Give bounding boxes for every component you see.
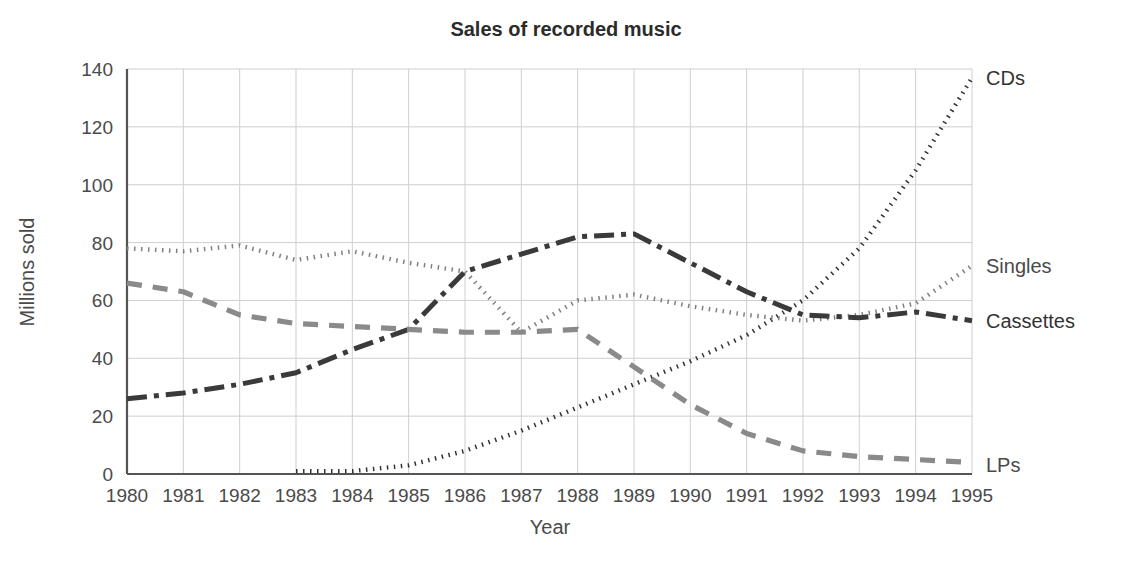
series-label-cds: CDs bbox=[986, 67, 1025, 89]
x-tick-label: 1980 bbox=[106, 485, 148, 506]
y-tick-label: 100 bbox=[81, 175, 113, 196]
series-labels: CDsSinglesCassettesLPs bbox=[986, 67, 1075, 477]
x-tick-label: 1986 bbox=[444, 485, 486, 506]
x-tick-label: 1987 bbox=[500, 485, 542, 506]
x-tick-label: 1989 bbox=[613, 485, 655, 506]
chart-title: Sales of recorded music bbox=[450, 18, 681, 40]
axis-lines bbox=[127, 69, 972, 474]
y-tick-label: 140 bbox=[81, 59, 113, 80]
x-tick-label: 1991 bbox=[726, 485, 768, 506]
y-axis-tick-labels: 020406080100120140 bbox=[81, 59, 113, 485]
y-tick-label: 60 bbox=[92, 290, 113, 311]
x-tick-label: 1993 bbox=[838, 485, 880, 506]
y-tick-label: 80 bbox=[92, 233, 113, 254]
series-label-cassettes: Cassettes bbox=[986, 310, 1075, 332]
chart-container: 1980198119821983198419851986198719881989… bbox=[0, 0, 1133, 577]
y-tick-label: 120 bbox=[81, 117, 113, 138]
grid-lines bbox=[127, 69, 972, 474]
x-tick-label: 1982 bbox=[219, 485, 261, 506]
y-tick-label: 40 bbox=[92, 348, 113, 369]
y-tick-label: 20 bbox=[92, 406, 113, 427]
x-tick-label: 1994 bbox=[895, 485, 938, 506]
x-axis-tick-labels: 1980198119821983198419851986198719881989… bbox=[106, 485, 993, 506]
x-tick-label: 1985 bbox=[388, 485, 430, 506]
x-tick-label: 1990 bbox=[669, 485, 711, 506]
x-axis-title: Year bbox=[530, 516, 571, 538]
line-chart: 1980198119821983198419851986198719881989… bbox=[0, 0, 1133, 577]
x-tick-label: 1988 bbox=[557, 485, 599, 506]
series-label-singles: Singles bbox=[986, 255, 1052, 277]
x-tick-label: 1984 bbox=[331, 485, 374, 506]
series-lines bbox=[127, 78, 972, 471]
y-tick-label: 0 bbox=[102, 464, 113, 485]
y-axis-title: Millions sold bbox=[16, 218, 38, 327]
x-tick-label: 1983 bbox=[275, 485, 317, 506]
x-tick-label: 1992 bbox=[782, 485, 824, 506]
x-tick-label: 1981 bbox=[162, 485, 204, 506]
series-label-lps: LPs bbox=[986, 454, 1020, 476]
series-line-lps bbox=[127, 283, 972, 462]
x-tick-label: 1995 bbox=[951, 485, 993, 506]
